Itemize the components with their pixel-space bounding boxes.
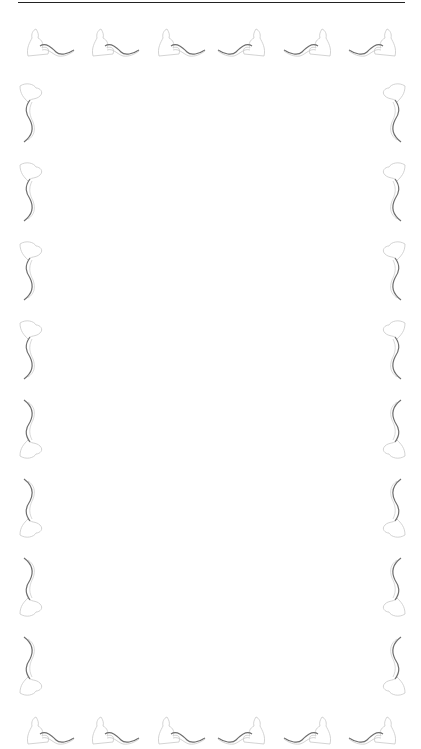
- swan-ornament-icon-left-6: [16, 477, 46, 539]
- swan-ornament-icon-right-1: [379, 82, 409, 144]
- swan-ornament-icon-left-1: [16, 82, 46, 144]
- border-left: [16, 82, 46, 697]
- swan-ornament-icon-top-5: [280, 26, 340, 60]
- swan-ornament-icon-left-5: [16, 398, 46, 460]
- swan-ornament-icon-left-3: [16, 240, 46, 302]
- swan-ornament-icon-top-6: [345, 26, 405, 60]
- border-right: [379, 82, 409, 697]
- swan-ornament-icon-top-3: [149, 26, 209, 60]
- swan-ornament-icon-bottom-2: [83, 714, 143, 748]
- page-body: [60, 80, 360, 690]
- swan-ornament-icon-bottom-3: [149, 714, 209, 748]
- swan-ornament-icon-left-7: [16, 556, 46, 618]
- swan-ornament-icon-right-8: [379, 635, 409, 697]
- swan-ornament-icon-top-4: [214, 26, 274, 60]
- swan-ornament-icon-bottom-6: [345, 714, 405, 748]
- swan-ornament-icon-right-6: [379, 477, 409, 539]
- swan-ornament-icon-right-2: [379, 161, 409, 223]
- swan-ornament-icon-left-4: [16, 319, 46, 381]
- swan-ornament-icon-right-7: [379, 556, 409, 618]
- swan-ornament-icon-top-2: [83, 26, 143, 60]
- swan-ornament-icon-right-3: [379, 240, 409, 302]
- swan-ornament-icon-left-8: [16, 635, 46, 697]
- swan-ornament-icon-right-5: [379, 398, 409, 460]
- swan-ornament-icon-right-4: [379, 319, 409, 381]
- swan-ornament-icon-bottom-5: [280, 714, 340, 748]
- swan-ornament-icon-left-2: [16, 161, 46, 223]
- swan-ornament-icon-bottom-1: [18, 714, 78, 748]
- border-top: [18, 26, 405, 60]
- swan-ornament-icon-bottom-4: [214, 714, 274, 748]
- swan-ornament-icon-top-1: [18, 26, 78, 60]
- border-bottom: [18, 714, 405, 748]
- header-rule: [18, 2, 405, 3]
